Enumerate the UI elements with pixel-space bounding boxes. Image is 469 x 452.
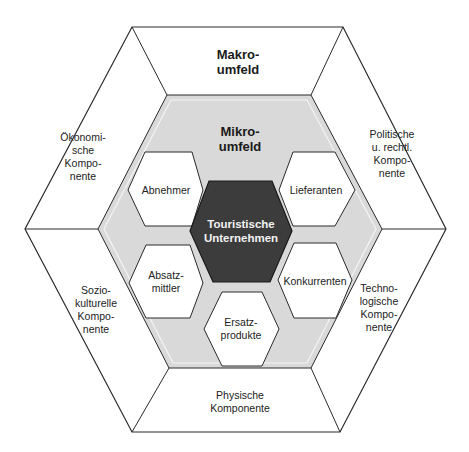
label-lieferanten: Lieferanten [290,184,343,197]
macro-title: Makro- umfeld [217,47,260,77]
micro-title: Mikro- umfeld [219,124,262,154]
label-politische-komponente: Politische u. rechtl. Kompo- nente [370,128,415,180]
label-ersatzprodukte: Ersatz- produkte [221,316,262,342]
label-physische-komponente: Physische Komponente [210,389,270,415]
label-touristische-unternehmen: Touristische Unternehmen [204,217,278,245]
label-konkurrenten: Konkurrenten [283,275,346,288]
label-absatzmittler: Absatz- mittler [148,269,184,295]
label-technologische-komponente: Techno- logische Kompo- nente [360,282,399,334]
label-oekonomische-komponente: Ökonomi- sche Kompo- nente [60,131,106,183]
label-soziokulturelle-komponente: Sozio- kulturelle Kompo- nente [75,284,117,336]
label-abnehmer: Abnehmer [142,184,190,197]
